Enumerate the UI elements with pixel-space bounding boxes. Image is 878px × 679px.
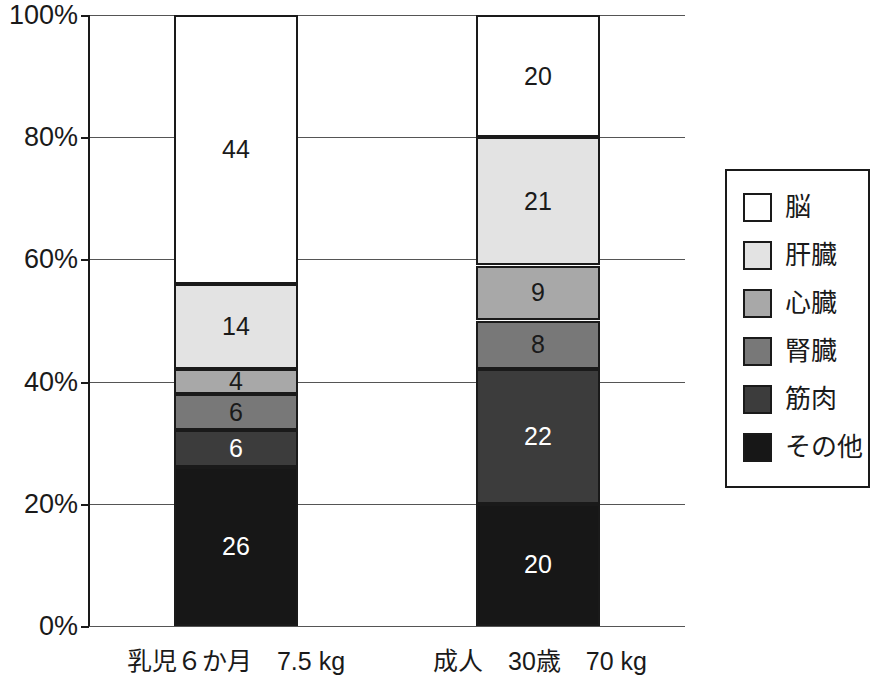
y-tick-label-80: 80% (0, 122, 78, 153)
legend-swatch-icon (743, 337, 772, 366)
bar-group-adult: 2021982220 (476, 15, 600, 626)
bar-segment-infant-肝臓: 14 (174, 284, 298, 370)
y-tick-mark-0 (81, 626, 89, 628)
bar-segment-value: 8 (531, 330, 545, 359)
legend-item-label: 心臓 (785, 290, 837, 316)
y-tick-mark-20 (81, 504, 89, 506)
legend-item-label: 腎臓 (785, 338, 837, 364)
legend-item-label: 筋肉 (785, 386, 837, 412)
legend-item-筋肉[interactable]: 筋肉 (727, 375, 868, 423)
legend-swatch-icon (743, 289, 772, 318)
bar-segment-infant-腎臓: 6 (174, 394, 298, 431)
bar-segment-value: 22 (524, 422, 552, 451)
bar-segment-value: 26 (222, 532, 250, 561)
bar-segment-value: 44 (222, 135, 250, 164)
legend: 脳肝臓心臓腎臓筋肉その他 (725, 169, 870, 488)
y-tick-mark-60 (81, 259, 89, 261)
stacked-bar-chart: 100%80%60%40%20%0% 441446626 2021982220 … (0, 0, 878, 679)
legend-swatch-icon (743, 193, 772, 222)
bar-segment-adult-筋肉: 22 (476, 369, 600, 503)
bar-segment-value: 6 (229, 434, 243, 463)
bar-segment-value: 21 (524, 187, 552, 216)
bar-segment-adult-腎臓: 8 (476, 321, 600, 370)
legend-swatch-icon (743, 385, 772, 414)
y-tick-mark-40 (81, 382, 89, 384)
y-tick-mark-100 (81, 15, 89, 17)
legend-swatch-icon (743, 433, 772, 462)
legend-item-脳[interactable]: 脳 (727, 183, 868, 231)
bar-segment-value: 6 (229, 398, 243, 427)
y-tick-label-100: 100% (0, 0, 78, 31)
legend-item-心臓[interactable]: 心臓 (727, 279, 868, 327)
bar-segment-infant-筋肉: 6 (174, 430, 298, 467)
bar-segment-value: 14 (222, 312, 250, 341)
gridline-0 (88, 626, 685, 627)
bar-segment-value: 20 (524, 62, 552, 91)
bar-segment-adult-心臓: 9 (476, 266, 600, 321)
legend-item-label: 肝臓 (785, 242, 837, 268)
legend-swatch-icon (743, 241, 772, 270)
bar-segment-adult-その他: 20 (476, 504, 600, 626)
bar-segment-infant-心臓: 4 (174, 369, 298, 393)
bar-segment-infant-その他: 26 (174, 467, 298, 626)
bar-segment-infant-脳: 44 (174, 15, 298, 284)
legend-item-その他[interactable]: その他 (727, 423, 868, 471)
bar-segment-value: 9 (531, 278, 545, 307)
y-tick-label-20: 20% (0, 489, 78, 520)
x-axis-label-adult: 成人 30歳 70 kg (350, 641, 730, 677)
y-tick-label-40: 40% (0, 367, 78, 398)
legend-item-label: 脳 (785, 194, 811, 220)
bar-group-infant: 441446626 (174, 15, 298, 626)
legend-item-label: その他 (785, 434, 863, 460)
legend-item-肝臓[interactable]: 肝臓 (727, 231, 868, 279)
legend-item-腎臓[interactable]: 腎臓 (727, 327, 868, 375)
y-tick-label-60: 60% (0, 244, 78, 275)
bar-segment-adult-肝臓: 21 (476, 137, 600, 265)
y-tick-mark-80 (81, 137, 89, 139)
bar-segment-adult-脳: 20 (476, 15, 600, 137)
y-axis-line (88, 15, 90, 626)
bar-segment-value: 20 (524, 550, 552, 579)
y-tick-label-0: 0% (0, 611, 78, 642)
bar-segment-value: 4 (229, 367, 243, 396)
